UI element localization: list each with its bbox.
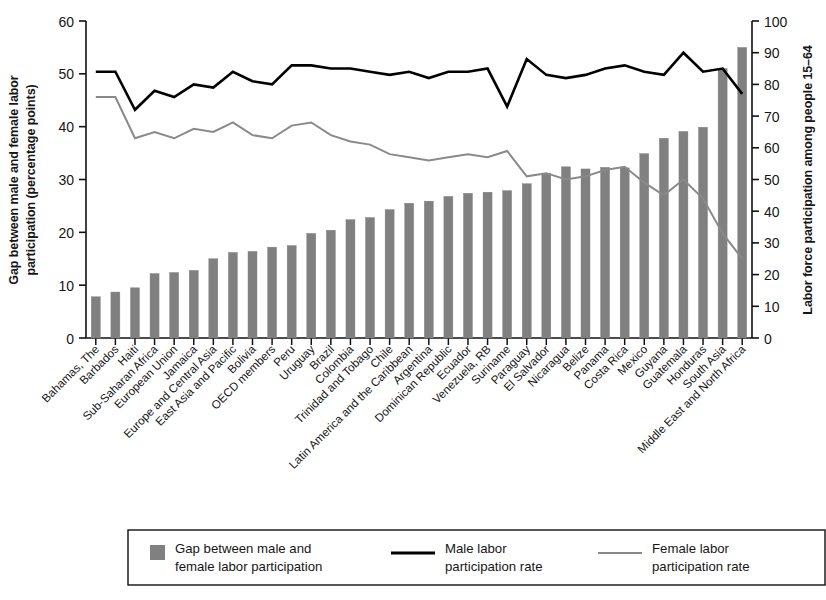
bar bbox=[542, 173, 551, 338]
legend-item: Male laborparticipation rate bbox=[391, 541, 543, 574]
bar bbox=[130, 288, 139, 338]
y-axis-right-tick-label: 30 bbox=[764, 235, 780, 251]
bar bbox=[189, 270, 198, 338]
y-axis-right-tick-label: 10 bbox=[764, 299, 780, 315]
bar bbox=[444, 196, 453, 338]
y-axis-left-title-line2: participation (percentage points) bbox=[24, 84, 38, 275]
chart-figure: Gap between male and female labor partic… bbox=[0, 0, 826, 600]
bar bbox=[561, 167, 570, 338]
legend-item: Female laborparticipation rate bbox=[598, 541, 750, 574]
bar bbox=[620, 168, 629, 338]
bar bbox=[385, 210, 394, 338]
labor-participation-chart: Gap between male and female labor partic… bbox=[0, 0, 826, 600]
bar bbox=[111, 292, 120, 338]
bar bbox=[699, 127, 708, 338]
y-axis-right-tick-label: 100 bbox=[764, 14, 788, 30]
y-axis-right-tick-label: 50 bbox=[764, 172, 780, 188]
bar bbox=[150, 274, 159, 338]
bar bbox=[287, 246, 296, 338]
y-axis-left-tick-label: 40 bbox=[58, 119, 74, 135]
plot-area: 01020304050600102030405060708090100Baham… bbox=[39, 14, 825, 586]
y-axis-right-tick-label: 90 bbox=[764, 45, 780, 61]
y-axis-right-tick-label: 0 bbox=[764, 331, 772, 347]
bar bbox=[346, 220, 355, 338]
bar bbox=[366, 218, 375, 338]
bar bbox=[307, 233, 316, 338]
bar bbox=[170, 272, 179, 338]
y-axis-right-tick-label: 80 bbox=[764, 77, 780, 93]
y-axis-left-title-line1: Gap between male and female labor bbox=[7, 75, 21, 285]
legend-label-line2: participation rate bbox=[445, 559, 543, 574]
legend-label-line1: Male labor bbox=[445, 541, 507, 556]
bar bbox=[463, 193, 472, 338]
y-axis-right-tick-label: 60 bbox=[764, 140, 780, 156]
bar bbox=[679, 131, 688, 338]
bar bbox=[405, 203, 414, 338]
bar bbox=[209, 259, 218, 338]
legend-label-line2: female labor participation bbox=[175, 559, 322, 574]
bar bbox=[601, 167, 610, 338]
legend-item: Gap between male andfemale labor partici… bbox=[150, 541, 322, 574]
y-axis-right-title: Labor force participation among people 1… bbox=[801, 45, 815, 314]
y-axis-left-tick-label: 50 bbox=[58, 66, 74, 82]
y-axis-left-tick-label: 0 bbox=[66, 331, 74, 347]
bar bbox=[248, 251, 257, 338]
bar bbox=[228, 252, 237, 338]
legend-label-line1: Gap between male and bbox=[175, 541, 311, 556]
bar bbox=[91, 297, 100, 338]
y-axis-right-tick-label: 70 bbox=[764, 109, 780, 125]
legend-label-line1: Female labor bbox=[652, 541, 730, 556]
bar bbox=[581, 169, 590, 338]
y-axis-right-tick-label: 40 bbox=[764, 204, 780, 220]
legend-swatch-gap bbox=[150, 545, 165, 560]
bar bbox=[522, 184, 531, 338]
bar bbox=[659, 138, 668, 338]
legend-box bbox=[128, 530, 825, 585]
y-axis-left-tick-label: 30 bbox=[58, 172, 74, 188]
bar bbox=[268, 247, 277, 338]
y-axis-right-tick-label: 20 bbox=[764, 267, 780, 283]
bar bbox=[503, 191, 512, 338]
male-participation-line bbox=[96, 53, 742, 110]
bar bbox=[483, 192, 492, 338]
y-axis-left-tick-label: 20 bbox=[58, 225, 74, 241]
bar bbox=[326, 230, 335, 338]
y-axis-left-tick-label: 60 bbox=[58, 14, 74, 30]
bar bbox=[718, 69, 727, 338]
legend-label-line2: participation rate bbox=[652, 559, 750, 574]
bar bbox=[424, 201, 433, 338]
y-axis-left-tick-label: 10 bbox=[58, 278, 74, 294]
